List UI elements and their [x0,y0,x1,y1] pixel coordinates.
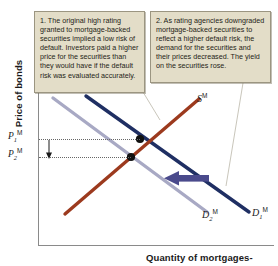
callout-2-leader-line [226,83,243,186]
demand-new-curve-label: D2M [202,208,218,222]
annotation-callout-2: 2. As rating agencies downgraded mortgag… [150,11,271,83]
x-axis-title: Quantity of mortgages- [146,252,253,263]
demand-new-label-sub: 2 [209,215,212,222]
demand-new-label-sup: M [212,208,217,215]
callout-1-leader-line [143,92,160,120]
annotation-callout-1: 1. The original high rating granted to m… [34,11,145,93]
price-label-p2-sup: M [17,147,22,154]
price-label-p2-sub: 2 [14,154,17,161]
price-guide-line-1 [39,139,140,140]
price-label-p2: P2M [8,147,22,161]
x-axis [38,245,274,246]
demand-initial-curve-label: D1M [252,206,268,220]
diagram-canvas: Price of bonds Quantity of mortgages- P1… [0,0,278,266]
demand-curve-initial [86,96,249,212]
supply-curve-label-sup: M [202,92,207,99]
price-label-p1-sup: M [17,129,22,136]
demand-initial-label-sub: 1 [259,213,262,220]
price-guide-line-2 [39,157,131,158]
price-label-p1: P1M [8,129,22,143]
supply-curve-label: SM [197,92,207,104]
demand-initial-label-sup: M [262,206,267,213]
price-label-p1-sub: 1 [14,136,17,143]
